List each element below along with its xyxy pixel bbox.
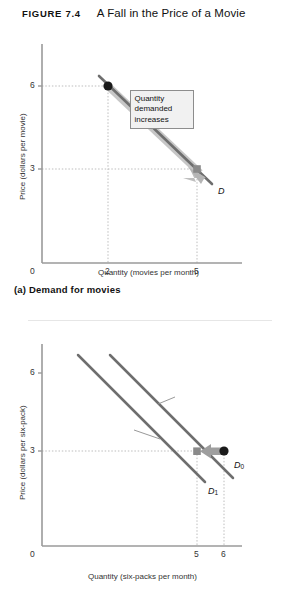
panel-a-origin-label: 0 [30, 266, 35, 276]
panel-b-curve-label-d0: D0 [234, 460, 244, 470]
panel-a-ylabel-3: 3 [30, 163, 35, 173]
panel-b-point-6-3 [219, 446, 228, 455]
panel-b-curve-label-d1: D1 [208, 486, 218, 496]
panel-b-ylabel-6: 6 [30, 367, 35, 377]
panel-b-origin-label: 0 [30, 549, 35, 559]
panel-a-plot [0, 26, 300, 304]
panel-b-demand-curve-d1 [78, 355, 205, 482]
panel-b-demand-for-soda: 6 3 0 5 6 D0 D1 Lisa's demand for soda w… [0, 322, 300, 592]
figure-title: A Fall in the Price of a Movie [97, 7, 246, 19]
panel-b-xlabel-6: 6 [221, 549, 226, 559]
panel-b-y-axis-title: Price (dollars per six-pack) [18, 405, 27, 500]
panel-b-x-axis-title: Quantity (six-packs per month) [88, 572, 197, 581]
panel-a-point-2-6 [103, 81, 112, 90]
panel-a-ylabel-6: 6 [30, 80, 35, 90]
panel-b-shift-arrow [200, 444, 222, 459]
panel-a-callout-quantity-demanded: Quantity demanded increases [130, 90, 194, 129]
panel-b-gridlines [42, 451, 224, 546]
panel-a-demand-for-movies: 6 3 0 2 5 D Quantity demanded increases [0, 26, 300, 304]
panel-a-x-axis-title: Quantity (movies per month) [98, 268, 199, 277]
panel-b-curve-label-d1-sub: 1 [215, 489, 219, 496]
panel-b-plot [0, 322, 300, 592]
panel-b-demand-curve-d0 [110, 355, 233, 478]
panel-b-point-5-3 [193, 447, 201, 455]
panel-b-ylabel-3: 3 [30, 445, 35, 455]
figure-header: FIGURE 7.4 A Fall in the Price of a Movi… [0, 0, 300, 26]
panel-b-callout-right-leader [158, 397, 175, 404]
figure-number: FIGURE 7.4 [22, 8, 81, 19]
panel-a-curve-label-d: D [218, 186, 225, 196]
panel-a-caption: (a) Demand for movies [14, 284, 121, 295]
panel-b-curve-label-d0-sub: 0 [241, 463, 245, 470]
panel-divider [28, 320, 272, 321]
panel-a-y-axis-title: Price (dollars per movie) [18, 113, 27, 200]
panel-b-xlabel-5: 5 [194, 549, 199, 559]
panel-a-point-5-3 [193, 165, 201, 173]
